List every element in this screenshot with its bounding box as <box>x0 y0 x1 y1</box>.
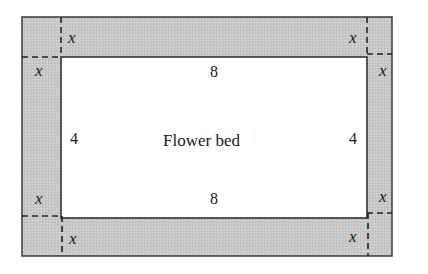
label-x-top-left-vertical: x <box>34 61 43 80</box>
flower-bed-diagram: x x x x x x x x 8 8 4 4 Flower bed <box>0 0 428 274</box>
label-bottom-length: 8 <box>210 190 218 207</box>
label-x-bottom-right-horizontal: x <box>348 227 357 246</box>
label-x-top-left-horizontal: x <box>67 28 76 47</box>
label-flower-bed: Flower bed <box>163 131 240 150</box>
label-x-bottom-left-horizontal: x <box>68 229 77 248</box>
label-top-length: 8 <box>210 63 218 80</box>
label-x-top-right-vertical: x <box>378 61 387 80</box>
label-right-width: 4 <box>349 130 357 147</box>
label-x-bottom-right-vertical: x <box>378 187 387 206</box>
label-x-bottom-left-vertical: x <box>34 189 43 208</box>
label-x-top-right-horizontal: x <box>348 28 357 47</box>
label-left-width: 4 <box>70 130 78 147</box>
